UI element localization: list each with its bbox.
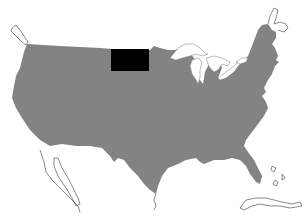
nova-scotia: [268, 8, 288, 32]
bahamas-1: [271, 166, 276, 172]
baja-peninsula: [54, 158, 80, 206]
north-dakota[interactable]: [111, 49, 149, 71]
cuba: [240, 198, 302, 210]
bahamas-3: [273, 180, 278, 186]
mexico-coast: [154, 194, 156, 210]
bahamas-2: [282, 174, 285, 180]
vancouver-island: [11, 25, 28, 45]
us-map: [0, 0, 307, 223]
